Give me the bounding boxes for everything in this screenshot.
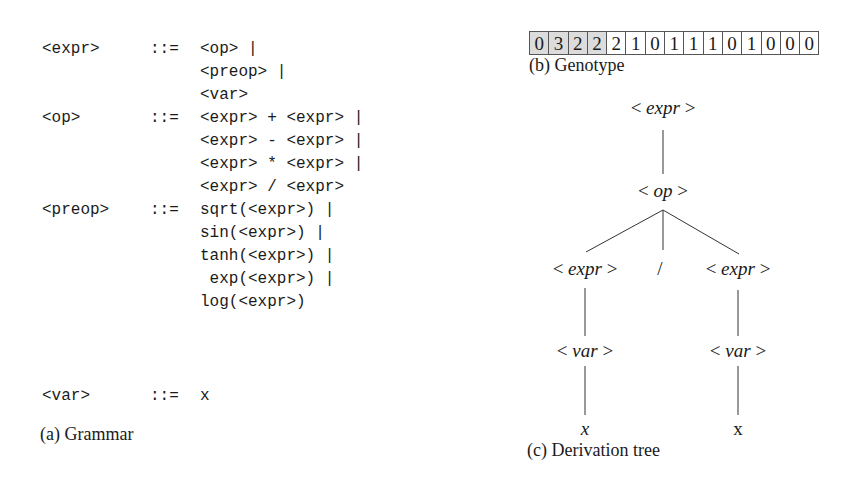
- node-label: var: [572, 340, 597, 361]
- tree-node-var-left: < var >: [557, 340, 613, 362]
- tree-node-op: < op >: [638, 180, 688, 202]
- tree-node-expr-right: < expr >: [706, 258, 771, 280]
- node-label: expr: [568, 258, 602, 279]
- node-label: op: [654, 180, 673, 201]
- tree-leaf-x-right: x: [733, 418, 743, 440]
- tree-node-slash: /: [657, 258, 662, 280]
- node-label: expr: [721, 258, 755, 279]
- tree-leaf-x-left: x: [581, 418, 589, 440]
- tree-caption: (c) Derivation tree: [527, 440, 660, 461]
- tree-node-expr-left: < expr >: [553, 258, 618, 280]
- node-label: var: [725, 340, 750, 361]
- tree-node-var-right: < var >: [710, 340, 766, 362]
- node-label: expr: [646, 97, 680, 118]
- tree-node-expr-root: < expr >: [631, 97, 696, 119]
